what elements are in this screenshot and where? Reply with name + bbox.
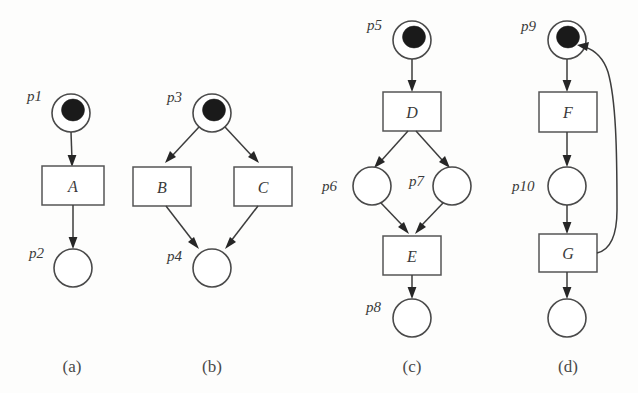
subcaption-a: (a) (63, 357, 82, 376)
place-label-p4: p4 (166, 248, 183, 264)
subcaption-c: (c) (403, 357, 422, 376)
petri-net-canvas: p1 A p2 (a) (0, 0, 638, 393)
transition-B: B (133, 167, 191, 206)
place-circle-p10 (548, 167, 586, 205)
place-p11 (548, 299, 586, 337)
transition-F: F (539, 92, 597, 132)
place-p2: p2 (28, 245, 92, 287)
token-p3 (203, 99, 226, 121)
place-p7: p7 (408, 167, 471, 205)
place-p10: p10 (511, 167, 586, 205)
place-p8: p8 (365, 299, 431, 337)
place-label-p9: p9 (520, 18, 537, 34)
arc-p10-to-G (563, 205, 572, 234)
subcaption-d: (d) (558, 357, 578, 376)
arc-G-to-p11 (563, 272, 572, 299)
petri-net-figure: p1 A p2 (a) (0, 0, 638, 393)
place-label-p8: p8 (365, 299, 382, 315)
arc-p9-to-F (563, 59, 572, 92)
transition-label-F: F (562, 104, 573, 121)
place-circle-p6 (353, 167, 391, 205)
transition-E: E (383, 236, 441, 275)
place-circle-p8 (393, 299, 431, 337)
arc-p6-to-E (381, 203, 409, 234)
transition-label-E: E (406, 248, 417, 265)
arc-p3-to-B (165, 127, 199, 163)
arc-D-to-p7 (416, 131, 450, 168)
place-label-p10: p10 (511, 178, 535, 194)
arc-F-to-p10 (563, 132, 572, 167)
arc-A-to-p2 (69, 205, 78, 249)
place-circle-p4 (193, 249, 231, 287)
token-p1 (62, 99, 85, 121)
place-p4: p4 (166, 248, 231, 287)
token-p5 (403, 26, 426, 48)
place-p5: p5 (366, 17, 431, 59)
subfigure-c: p5 D p6 (321, 17, 471, 376)
place-circle-p11 (548, 299, 586, 337)
place-label-p5: p5 (366, 17, 383, 33)
place-p1: p1 (26, 88, 90, 132)
transition-label-C: C (258, 179, 269, 196)
subcaption-b: (b) (202, 357, 222, 376)
place-p9: p9 (520, 18, 586, 59)
place-p6: p6 (321, 167, 391, 205)
arc-D-to-p6 (374, 131, 408, 168)
place-circle-p2 (54, 249, 92, 287)
transition-label-G: G (562, 245, 574, 262)
transition-G: G (539, 234, 597, 272)
place-label-p2: p2 (28, 245, 45, 261)
place-p3: p3 (166, 89, 231, 132)
token-p9 (557, 26, 580, 48)
subfigure-d: p9 F p10 (511, 18, 617, 376)
place-label-p1: p1 (26, 88, 42, 104)
subfigure-a: p1 A p2 (a) (26, 88, 104, 376)
transition-D: D (383, 92, 441, 131)
arc-p5-to-D (408, 59, 417, 92)
place-label-p7: p7 (408, 173, 426, 189)
subfigure-b: p3 B C (133, 89, 292, 376)
arc-G-to-p9-feedback (577, 42, 617, 253)
arc-E-to-p8 (408, 275, 417, 299)
place-label-p3: p3 (166, 89, 182, 105)
arc-p1-to-A (68, 132, 77, 167)
transition-A: A (42, 166, 104, 205)
arc-p7-to-E (415, 203, 443, 234)
arc-B-to-p4 (166, 206, 199, 249)
transition-label-D: D (405, 104, 418, 121)
place-circle-p7 (433, 167, 471, 205)
transition-label-B: B (157, 179, 167, 196)
place-label-p6: p6 (321, 178, 338, 194)
arc-C-to-p4 (225, 206, 258, 249)
transition-C: C (234, 167, 292, 206)
transition-label-A: A (67, 178, 78, 195)
arc-p3-to-C (225, 127, 259, 163)
